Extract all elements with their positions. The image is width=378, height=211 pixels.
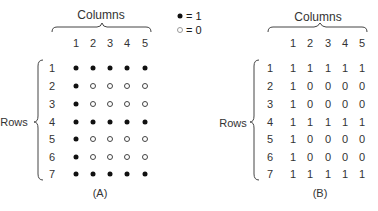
column-number-b: 4	[342, 38, 348, 49]
row-number-a: 4	[49, 117, 55, 128]
binary-cell: 0	[359, 134, 365, 145]
filled-dot-cell	[143, 66, 148, 71]
binary-cell: 1	[325, 117, 331, 128]
hollow-dot-cell	[124, 83, 130, 89]
hollow-dot-cell	[90, 83, 96, 89]
binary-cell: 1	[307, 117, 313, 128]
filled-dot-cell	[91, 66, 96, 71]
binary-cell: 0	[325, 99, 331, 110]
hollow-dot-cell	[107, 83, 113, 89]
binary-cell: 0	[359, 99, 365, 110]
row-number-a: 3	[49, 99, 55, 110]
binary-cell: 1	[290, 169, 296, 180]
column-number-a: 5	[142, 38, 148, 49]
binary-cell: 0	[342, 152, 348, 163]
filled-dot-cell	[74, 66, 79, 71]
row-number-a: 5	[49, 134, 55, 145]
rows-brace-b	[250, 60, 259, 180]
hollow-dot-cell	[142, 101, 148, 107]
legend-filled-dot-icon	[178, 14, 183, 19]
binary-cell: 1	[342, 117, 348, 128]
legend-hollow-label: = 0	[186, 24, 202, 36]
caption-b: (B)	[313, 188, 328, 199]
hollow-dot-cell	[124, 154, 130, 160]
hollow-dot-cell	[107, 154, 113, 160]
binary-cell: 1	[342, 169, 348, 180]
columns-brace-b	[268, 23, 367, 32]
columns-label-b: Columns	[294, 12, 341, 23]
row-number-b: 5	[267, 134, 273, 145]
filled-dot-cell	[143, 120, 148, 125]
binary-cell: 1	[325, 63, 331, 74]
column-number-a: 4	[124, 38, 130, 49]
row-number-a: 2	[49, 81, 55, 92]
binary-cell: 1	[325, 169, 331, 180]
hollow-dot-cell	[142, 136, 148, 142]
filled-dot-cell	[74, 137, 79, 142]
filled-dot-cell	[74, 155, 79, 160]
binary-cell: 0	[325, 134, 331, 145]
filled-dot-cell	[108, 66, 113, 71]
binary-cell: 0	[359, 152, 365, 163]
column-number-b: 5	[359, 38, 365, 49]
hollow-dot-cell	[90, 136, 96, 142]
filled-dot-cell	[74, 172, 79, 177]
filled-dot-cell	[74, 120, 79, 125]
row-number-a: 6	[49, 152, 55, 163]
filled-dot-cell	[91, 120, 96, 125]
hollow-dot-cell	[107, 101, 113, 107]
binary-cell: 1	[359, 63, 365, 74]
binary-cell: 0	[359, 81, 365, 92]
row-number-b: 4	[267, 117, 273, 128]
hollow-dot-cell	[107, 136, 113, 142]
column-number-a: 2	[90, 38, 96, 49]
filled-dot-cell	[108, 172, 113, 177]
hollow-dot-cell	[124, 136, 130, 142]
filled-dot-cell	[108, 120, 113, 125]
filled-dot-cell	[125, 66, 130, 71]
binary-cell: 1	[290, 63, 296, 74]
binary-cell: 0	[342, 99, 348, 110]
column-number-b: 3	[325, 38, 331, 49]
column-number-b: 2	[307, 38, 313, 49]
binary-cell: 1	[359, 169, 365, 180]
filled-dot-cell	[125, 172, 130, 177]
columns-label-a: Columns	[77, 10, 124, 21]
binary-cell: 0	[325, 81, 331, 92]
binary-cell: 0	[325, 152, 331, 163]
filled-dot-cell	[143, 172, 148, 177]
legend-hollow-dot-icon	[177, 27, 183, 33]
row-number-a: 7	[49, 169, 55, 180]
binary-cell: 1	[342, 63, 348, 74]
binary-cell: 1	[290, 152, 296, 163]
row-number-a: 1	[49, 63, 55, 74]
binary-cell: 1	[290, 81, 296, 92]
binary-cell: 1	[290, 134, 296, 145]
hollow-dot-cell	[124, 101, 130, 107]
rows-label-b: Rows	[219, 118, 247, 129]
filled-dot-cell	[74, 84, 79, 89]
binary-cell: 1	[307, 63, 313, 74]
hollow-dot-cell	[142, 154, 148, 160]
binary-cell: 0	[307, 81, 313, 92]
binary-cell: 1	[290, 99, 296, 110]
filled-dot-cell	[125, 120, 130, 125]
columns-brace-a	[52, 23, 151, 32]
filled-dot-cell	[91, 172, 96, 177]
binary-cell: 1	[307, 169, 313, 180]
binary-cell: 0	[307, 152, 313, 163]
binary-cell: 0	[342, 134, 348, 145]
row-number-b: 7	[267, 169, 273, 180]
row-number-b: 1	[267, 63, 273, 74]
column-number-b: 1	[290, 38, 296, 49]
rows-brace-a	[34, 60, 43, 180]
binary-cell: 0	[307, 134, 313, 145]
column-number-a: 1	[73, 38, 79, 49]
binary-cell: 1	[290, 117, 296, 128]
column-number-a: 3	[107, 38, 113, 49]
row-number-b: 2	[267, 81, 273, 92]
row-number-b: 3	[267, 99, 273, 110]
legend-filled-label: = 1	[186, 10, 202, 22]
filled-dot-cell	[74, 102, 79, 107]
hollow-dot-cell	[90, 101, 96, 107]
